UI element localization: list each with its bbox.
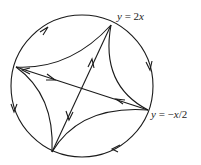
orbit-left-top	[16, 25, 111, 67]
orbit-right-bottom	[52, 110, 148, 152]
arrow-icon-line-tb-upper	[88, 59, 94, 68]
boundary-circle	[11, 15, 153, 157]
label-top-point: y = 2x	[116, 10, 144, 22]
phase-portrait-diagram: y = 2x y = −x/2 y = 2x y = −x/2	[0, 0, 201, 165]
orbit-top-right	[109, 25, 148, 110]
line-top-bottom	[52, 25, 111, 152]
label-right-point: y = −x/2	[150, 108, 187, 120]
